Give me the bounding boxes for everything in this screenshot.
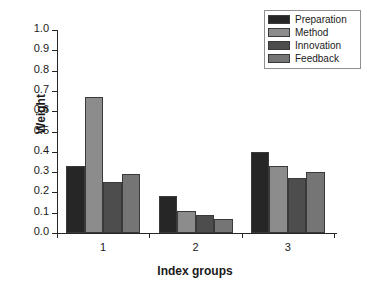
y-axis-tick-mark	[52, 50, 57, 51]
legend-label: Feedback	[295, 53, 339, 64]
legend-label: Preparation	[295, 14, 347, 25]
y-axis-tick-mark	[52, 30, 57, 31]
y-axis-tick-label: 0.1	[34, 205, 49, 217]
y-axis-tick-label: 0.4	[34, 144, 49, 156]
y-axis-tick-mark	[52, 111, 57, 112]
bar	[177, 211, 196, 233]
legend-swatch-icon	[268, 28, 290, 37]
legend-label: Method	[295, 27, 328, 38]
legend-swatch-icon	[268, 41, 290, 50]
y-axis-tick-label: 0.3	[34, 164, 49, 176]
x-axis-label: Index groups	[57, 264, 333, 278]
y-axis-tick-mark	[52, 91, 57, 92]
legend-swatch-icon	[268, 15, 290, 24]
x-axis-tick-label: 3	[285, 241, 291, 253]
y-axis-tick-mark	[52, 172, 57, 173]
chart-legend: PreparationMethodInnovationFeedback	[264, 10, 361, 69]
x-axis-tick-label: 2	[192, 241, 198, 253]
legend-item[interactable]: Feedback	[268, 52, 357, 64]
x-axis-line	[57, 233, 337, 234]
bar	[103, 182, 122, 233]
x-axis-tick-mark	[242, 233, 243, 238]
x-axis-tick-label: 1	[100, 241, 106, 253]
y-axis-tick-mark	[52, 132, 57, 133]
y-axis-tick-label: 0.9	[34, 42, 49, 54]
legend-item[interactable]: Innovation	[268, 39, 357, 51]
legend-item[interactable]: Preparation	[268, 13, 357, 25]
y-axis-tick-mark	[52, 71, 57, 72]
x-axis-tick-mark	[149, 233, 150, 238]
y-axis-tick-label: 0.5	[34, 124, 49, 136]
legend-item[interactable]: Method	[268, 26, 357, 38]
y-axis-tick-label: 1.0	[34, 22, 49, 34]
y-axis-tick-mark	[52, 152, 57, 153]
bar	[85, 97, 104, 233]
y-axis-tick-label: 0.7	[34, 83, 49, 95]
legend-swatch-icon	[268, 54, 290, 63]
y-axis-tick-label: 0.6	[34, 103, 49, 115]
bar	[214, 219, 233, 233]
y-axis-tick-mark	[52, 213, 57, 214]
bar	[66, 166, 85, 233]
x-axis-tick-mark	[334, 233, 335, 238]
x-axis-tick-mark	[57, 233, 58, 238]
bar	[269, 166, 288, 233]
y-axis-tick-label: 0.0	[34, 225, 49, 237]
y-axis-tick-label: 0.8	[34, 63, 49, 75]
bar	[306, 172, 325, 233]
y-axis-tick-label: 0.2	[34, 184, 49, 196]
bar	[122, 174, 141, 233]
bar-chart: Weight 0.00.10.20.30.40.50.60.70.80.91.0…	[0, 0, 367, 290]
bar	[196, 215, 215, 233]
bar	[288, 178, 307, 233]
bar	[159, 196, 178, 233]
y-axis-tick-mark	[52, 192, 57, 193]
legend-label: Innovation	[295, 40, 341, 51]
bar	[251, 152, 270, 233]
